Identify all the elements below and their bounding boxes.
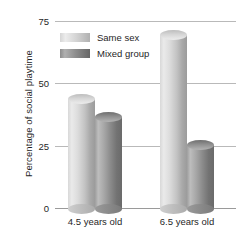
bar-body xyxy=(68,99,95,209)
gridline-50: 50 xyxy=(55,83,236,84)
bar-same-sex-6-5-years xyxy=(160,30,187,209)
legend-swatch-icon-mixed-group xyxy=(60,49,90,58)
bar-base-ellipse xyxy=(95,204,122,214)
bar-base-ellipse xyxy=(68,204,95,214)
y-tick-label-25: 25 xyxy=(38,141,49,152)
bar-top-ellipse xyxy=(160,30,187,40)
y-tick-label-0: 0 xyxy=(44,203,49,214)
legend-label-mixed-group: Mixed group xyxy=(97,48,149,59)
legend: Same sex Mixed group xyxy=(60,31,149,63)
legend-item-mixed-group: Mixed group xyxy=(60,47,149,60)
bar-base-ellipse xyxy=(187,204,214,214)
bar-top-ellipse xyxy=(95,112,122,122)
bar-mixed-group-4-5-years xyxy=(95,112,122,209)
bar-body xyxy=(160,35,187,209)
y-axis-title: Percentage of social playtime xyxy=(23,24,34,204)
bar-same-sex-4-5-years xyxy=(68,94,95,209)
legend-label-same-sex: Same sex xyxy=(97,32,139,43)
bar-top-ellipse xyxy=(68,94,95,104)
bar-mixed-group-6-5-years xyxy=(187,140,214,209)
legend-item-same-sex: Same sex xyxy=(60,31,149,44)
legend-swatch-icon-same-sex xyxy=(60,33,90,42)
bar-chart: Percentage of social playtime 75 50 25 0 xyxy=(0,0,240,237)
gridline-75: 75 xyxy=(55,21,236,22)
y-tick-label-50: 50 xyxy=(38,78,49,89)
x-axis-label-4-5-years: 4.5 years old xyxy=(68,216,122,227)
bar-top-ellipse xyxy=(187,140,214,150)
bar-body xyxy=(95,117,122,209)
y-tick-label-75: 75 xyxy=(38,16,49,27)
bar-base-ellipse xyxy=(160,204,187,214)
bar-body xyxy=(187,145,214,209)
x-axis-label-6-5-years: 6.5 years old xyxy=(160,216,214,227)
